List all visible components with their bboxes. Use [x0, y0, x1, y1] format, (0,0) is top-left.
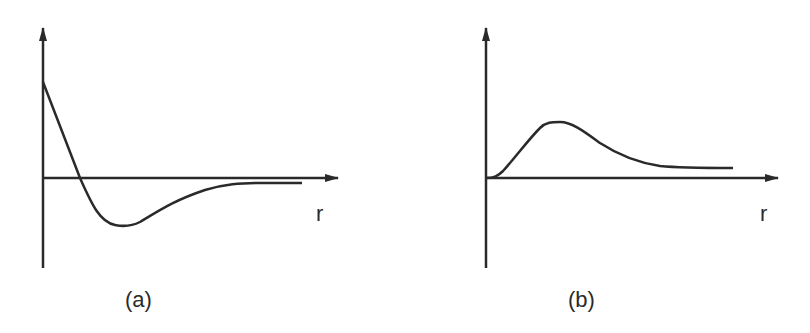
- panel-b-curve: [486, 122, 733, 178]
- panel-a-caption: (a): [125, 287, 152, 312]
- panel-b-x-label: r: [760, 201, 767, 226]
- figure: r (a) r (b): [0, 0, 810, 333]
- panel-b: r (b): [486, 28, 778, 312]
- panel-b-caption: (b): [568, 287, 595, 312]
- panel-a-x-label: r: [316, 201, 323, 226]
- panel-a-curve: [43, 82, 302, 226]
- panel-a: r (a): [43, 28, 338, 312]
